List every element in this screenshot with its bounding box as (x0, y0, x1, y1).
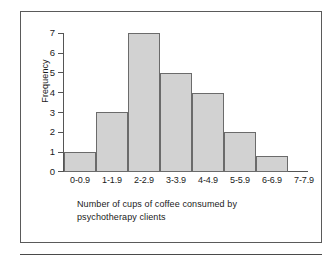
y-tick-5 (58, 72, 63, 73)
y-tick-label-4: 4 (39, 88, 55, 97)
y-tick-label-1: 1 (39, 147, 55, 156)
y-tick-4 (58, 92, 63, 93)
y-tick-label-2: 2 (39, 127, 55, 136)
y-tick-2 (58, 132, 63, 133)
y-tick-0 (58, 171, 63, 172)
bar-4-4.9 (192, 93, 224, 172)
x-tick-label-1: 1-1.9 (95, 175, 129, 186)
bar-1-1.9 (96, 112, 128, 172)
caption-line-1: Number of cups of coffee consumed by (77, 198, 297, 211)
y-tick-6 (58, 53, 63, 54)
y-tick-3 (58, 112, 63, 113)
bar-2-2.9 (128, 33, 160, 172)
y-tick-7 (58, 33, 63, 34)
y-tick-1 (58, 152, 63, 153)
y-tick-label-6: 6 (39, 48, 55, 57)
x-tick-label-4: 4-4.9 (191, 175, 225, 186)
x-tick-label-5: 5-5.9 (223, 175, 257, 186)
x-axis-tick-labels: 0-0.9 1-1.9 2-2.9 3-3.9 4-4.9 5-5.9 6-6.… (64, 175, 320, 189)
caption-line-2: psychotherapy clients (77, 211, 297, 224)
y-tick-label-3: 3 (39, 108, 55, 117)
x-tick-label-2: 2-2.9 (127, 175, 161, 186)
x-tick-label-6: 6-6.9 (255, 175, 289, 186)
bar-3-3.9 (160, 73, 192, 172)
y-tick-label-7: 7 (39, 28, 55, 37)
x-tick-label-3: 3-3.9 (159, 175, 193, 186)
figure-root: Frequency 7 6 5 4 3 2 1 0 (0, 0, 335, 260)
x-tick-label-7: 7-7.9 (287, 175, 321, 186)
histogram-plot: Frequency 7 6 5 4 3 2 1 0 (21, 12, 323, 244)
y-tick-label-5: 5 (39, 68, 55, 77)
bar-series (64, 33, 288, 172)
bar-5-5.9 (224, 132, 256, 172)
y-tick-label-0: 0 (39, 167, 55, 176)
figure-border-box: Frequency 7 6 5 4 3 2 1 0 (20, 11, 322, 243)
bar-6-6.9 (256, 156, 288, 172)
figure-caption: Number of cups of coffee consumed by psy… (77, 198, 297, 224)
bottom-separator-rule (20, 254, 322, 255)
x-tick-label-0: 0-0.9 (63, 175, 97, 186)
bar-0-0.9 (64, 152, 96, 172)
